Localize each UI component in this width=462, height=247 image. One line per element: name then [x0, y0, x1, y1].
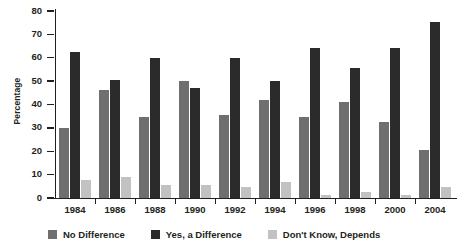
legend-item[interactable]: Don't Know, Depends: [268, 229, 380, 240]
legend-item[interactable]: Yes, a Difference: [151, 229, 242, 240]
bar-group: [255, 11, 295, 198]
bar[interactable]: [390, 48, 400, 198]
x-axis-separator: [255, 198, 256, 204]
bar[interactable]: [270, 81, 280, 198]
y-axis-tick-mark: [47, 57, 54, 58]
x-axis-label: 2004: [405, 204, 462, 215]
y-axis-tick-mark: [47, 104, 54, 105]
bar[interactable]: [350, 68, 360, 198]
x-axis-separator: [175, 198, 176, 204]
bar-group: [375, 11, 415, 198]
bar[interactable]: [230, 58, 240, 198]
y-axis-tick-label: 50: [0, 75, 42, 86]
bar-group: [295, 11, 335, 198]
y-axis-tick-label: 10: [0, 168, 42, 179]
bar-group: [135, 11, 175, 198]
bar[interactable]: [219, 115, 229, 198]
x-axis-separator: [295, 198, 296, 204]
chart-legend: No DifferenceYes, a DifferenceDon't Know…: [48, 229, 406, 240]
bar-group: [175, 11, 215, 198]
x-axis-separator: [415, 198, 416, 204]
y-axis-tick-label: 60: [0, 51, 42, 62]
y-axis-tick-label: 40: [0, 98, 42, 109]
bar[interactable]: [121, 177, 131, 198]
bar[interactable]: [190, 88, 200, 198]
legend-swatch-icon: [151, 230, 160, 239]
legend-swatch-icon: [48, 230, 57, 239]
y-axis-tick-mark: [47, 127, 54, 128]
y-axis-tick-mark: [47, 34, 54, 35]
bar-chart: Percentage 80706050403020100 19841986198…: [0, 0, 462, 247]
bar[interactable]: [201, 185, 211, 198]
bar-group: [215, 11, 255, 198]
x-axis-separator: [335, 198, 336, 204]
x-axis-separator: [375, 198, 376, 204]
bar[interactable]: [150, 58, 160, 198]
y-axis-tick-mark: [47, 197, 54, 198]
plot-area: [55, 11, 455, 198]
bar-group: [415, 11, 455, 198]
bar[interactable]: [259, 100, 269, 198]
legend-label: Yes, a Difference: [166, 229, 242, 240]
legend-swatch-icon: [268, 230, 277, 239]
bar[interactable]: [361, 192, 371, 198]
legend-label: Don't Know, Depends: [283, 229, 380, 240]
bar[interactable]: [321, 195, 331, 199]
x-axis-separator: [95, 198, 96, 204]
bar[interactable]: [99, 90, 109, 198]
x-axis-separator: [215, 198, 216, 204]
bar-group: [55, 11, 95, 198]
bar[interactable]: [310, 48, 320, 198]
y-axis-tick-mark: [47, 151, 54, 152]
x-axis-separator: [135, 198, 136, 204]
bar[interactable]: [179, 81, 189, 198]
bar[interactable]: [81, 180, 91, 198]
legend-item[interactable]: No Difference: [48, 229, 125, 240]
bar[interactable]: [139, 117, 149, 198]
bar[interactable]: [441, 187, 451, 198]
y-axis-tick-label: 20: [0, 145, 42, 156]
bar[interactable]: [401, 195, 411, 199]
y-axis-tick-label: 70: [0, 28, 42, 39]
bar[interactable]: [379, 122, 389, 198]
y-axis-tick-mark: [47, 174, 54, 175]
legend-label: No Difference: [63, 229, 125, 240]
bar[interactable]: [110, 80, 120, 198]
y-axis-tick-mark: [47, 80, 54, 81]
y-axis-tick-mark: [47, 10, 54, 11]
y-axis-tick-label: 30: [0, 121, 42, 132]
bar[interactable]: [430, 22, 440, 198]
bar[interactable]: [299, 117, 309, 198]
bar[interactable]: [70, 52, 80, 198]
y-axis-tick-label: 80: [0, 5, 42, 16]
bar[interactable]: [419, 150, 429, 198]
bar-group: [335, 11, 375, 198]
bar-group: [95, 11, 135, 198]
bar[interactable]: [281, 182, 291, 198]
bar[interactable]: [59, 128, 69, 198]
y-axis-tick-label: 0: [0, 192, 42, 203]
bar[interactable]: [161, 185, 171, 198]
bar[interactable]: [241, 187, 251, 198]
bar[interactable]: [339, 102, 349, 198]
